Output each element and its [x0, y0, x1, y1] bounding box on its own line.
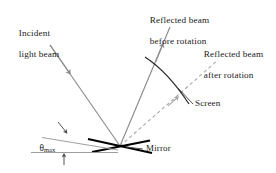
reflected-after-rotation-label: Reflected beam after rotation [194, 38, 263, 91]
mirror-lines [88, 139, 152, 153]
theta-max-label: θmax [30, 133, 55, 163]
reflected-after-label-line1: Reflected beam [204, 49, 264, 59]
reflected-before-label-line1: Reflected beam [150, 15, 210, 25]
theta-upper-arrow [58, 122, 67, 133]
theta-subscript: max [44, 146, 55, 153]
screen-arc [145, 57, 189, 104]
diagram-canvas: Incident light beam Reflected beam befor… [0, 0, 276, 173]
incident-beam-ray [50, 45, 120, 146]
screen-label: Screen [195, 98, 220, 109]
incident-beam-label-line2: light beam [19, 49, 60, 59]
incident-beam-label-line1: Incident [19, 28, 50, 38]
incident-beam-label: Incident light beam [9, 17, 59, 70]
mirror-label: Mirror [146, 143, 171, 154]
reflected-after-label-line2: after rotation [204, 70, 254, 80]
screen-leader-line [178, 88, 193, 104]
